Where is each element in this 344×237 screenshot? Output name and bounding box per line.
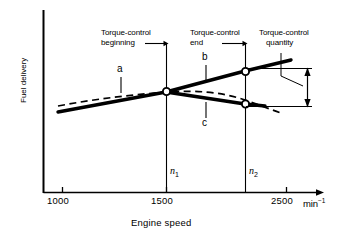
n2-subscript: 2 xyxy=(254,171,258,178)
marker-label-n1: n1 xyxy=(170,166,179,180)
annotation-torque-control-quantity-line1: Torque-control xyxy=(259,28,309,38)
annotation-torque-control-beginning-line2: beginning xyxy=(101,38,135,48)
y-axis-label: Fuel delivery xyxy=(19,58,28,103)
x-tick-label-1000: 1000 xyxy=(47,196,69,206)
curve-label-b: b xyxy=(202,52,207,62)
quantity-label-leader xyxy=(281,53,303,86)
x-axis-label: Engine speed xyxy=(131,218,192,228)
curve-label-c: c xyxy=(202,118,207,128)
curve-c-solid xyxy=(166,92,265,106)
annotation-torque-control-end-line1: Torque-control xyxy=(190,28,240,38)
x-axis-arrowhead xyxy=(316,189,324,196)
x-tick-marks xyxy=(63,187,287,193)
x-unit-exponent: −1 xyxy=(318,197,325,204)
x-tick-label-1500: 1500 xyxy=(151,196,173,206)
n1-subscript: 1 xyxy=(175,171,179,178)
annotation-torque-control-beginning-line1: Torque-control xyxy=(101,28,151,38)
x-axis-unit: min−1 xyxy=(303,196,325,209)
x-tick-label-2500: 2500 xyxy=(271,196,293,206)
annotation-torque-control-quantity-line2: quantity xyxy=(266,38,293,48)
marker-n1-junction xyxy=(163,88,170,95)
marker-label-n2: n2 xyxy=(249,166,258,180)
figure-root: Fuel delivery Torque-control beginning T… xyxy=(0,0,344,237)
leader-torque-control-beginning xyxy=(145,41,169,46)
curve-label-a: a xyxy=(117,64,122,74)
annotation-torque-control-end-line2: end xyxy=(190,38,203,48)
leader-torque-control-end xyxy=(222,41,248,46)
x-unit-base: min xyxy=(303,198,318,209)
